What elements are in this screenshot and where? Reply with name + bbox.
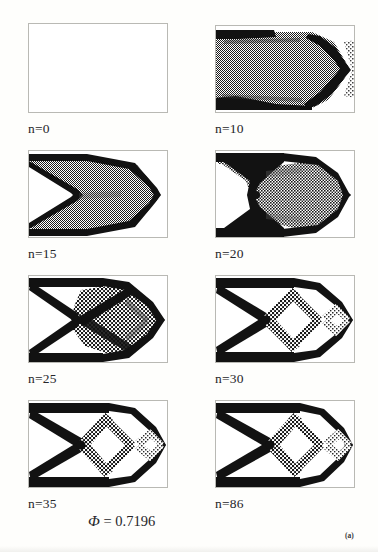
design-domain-n0 [29,24,168,113]
panel-frame-n35 [28,400,168,488]
design-domain-n10 [216,26,355,113]
panel-label-n86: n=86 [215,496,244,512]
objective-value: Φ = 0.7196 [88,512,155,530]
phi-number: 0.7196 [115,513,155,529]
panel-n35 [28,400,168,488]
scan-edge-shadow [0,546,378,552]
panel-n25 [28,275,168,363]
panel-frame-n30 [215,275,355,363]
panel-label-n0: n=0 [28,121,50,137]
panel-n30 [215,275,355,363]
panel-n15 [28,150,168,238]
design-domain-n86 [216,401,355,488]
panel-frame-n20 [215,150,355,238]
figure-topology-evolution: n=0 n=10 [0,0,378,552]
panel-n10 [215,25,355,113]
panel-label-n20: n=20 [215,246,244,262]
panel-n0 [28,23,168,113]
design-domain-n35 [29,401,168,488]
design-domain-n30 [216,276,355,363]
design-domain-n15 [29,151,168,238]
subfigure-caption: (a) [345,531,354,540]
phi-symbol: Φ [88,512,100,529]
panel-label-n15: n=15 [28,246,57,262]
design-domain-n25 [29,276,168,363]
panel-n86 [215,400,355,488]
phi-equals: = [103,513,111,529]
panel-label-n25: n=25 [28,371,57,387]
panel-frame-n10 [215,25,355,113]
design-domain-n20 [216,151,355,238]
panel-frame-n0 [28,23,168,113]
panel-frame-n25 [28,275,168,363]
panel-frame-n86 [215,400,355,488]
panel-label-n30: n=30 [215,371,244,387]
panel-label-n10: n=10 [215,121,244,137]
panel-n20 [215,150,355,238]
panel-label-n35: n=35 [28,496,57,512]
panel-frame-n15 [28,150,168,238]
